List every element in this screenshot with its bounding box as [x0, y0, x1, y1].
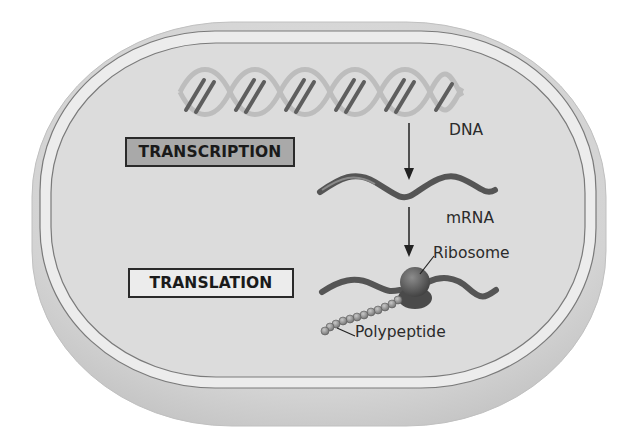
cell-diagram: TRANSCRIPTION TRANSLATION DNA mRNA Ribos… — [0, 0, 637, 441]
mrna-label: mRNA — [446, 209, 494, 227]
ribosome-label: Ribosome — [433, 244, 510, 262]
translation-label-box: TRANSLATION — [128, 268, 294, 298]
transcription-label: TRANSCRIPTION — [139, 143, 282, 161]
inner-membrane — [51, 43, 585, 377]
dna-label: DNA — [449, 121, 483, 139]
translation-label: TRANSLATION — [150, 274, 273, 292]
cell-illustration — [0, 0, 637, 441]
polypeptide-label: Polypeptide — [355, 323, 446, 341]
transcription-label-box: TRANSCRIPTION — [125, 137, 295, 167]
